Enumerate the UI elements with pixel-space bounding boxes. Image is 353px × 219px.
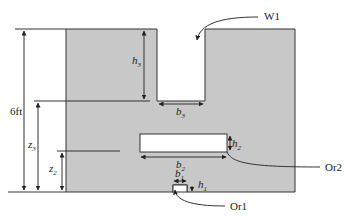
- height-6ft-label: 6ft: [10, 105, 22, 117]
- orifice-or2-slot: [140, 134, 227, 152]
- z2-label: z2: [48, 162, 57, 177]
- weir-w1-label: W1: [264, 10, 280, 22]
- orifice-or2-label: Or2: [325, 161, 342, 173]
- orifice-or1-label: Or1: [230, 200, 247, 212]
- tank-diagram: 6ft z3 z2 h3 b3 W1 h2 b2 b1 h1 Or2 Or1: [0, 0, 353, 219]
- z3-label: z3: [27, 138, 36, 153]
